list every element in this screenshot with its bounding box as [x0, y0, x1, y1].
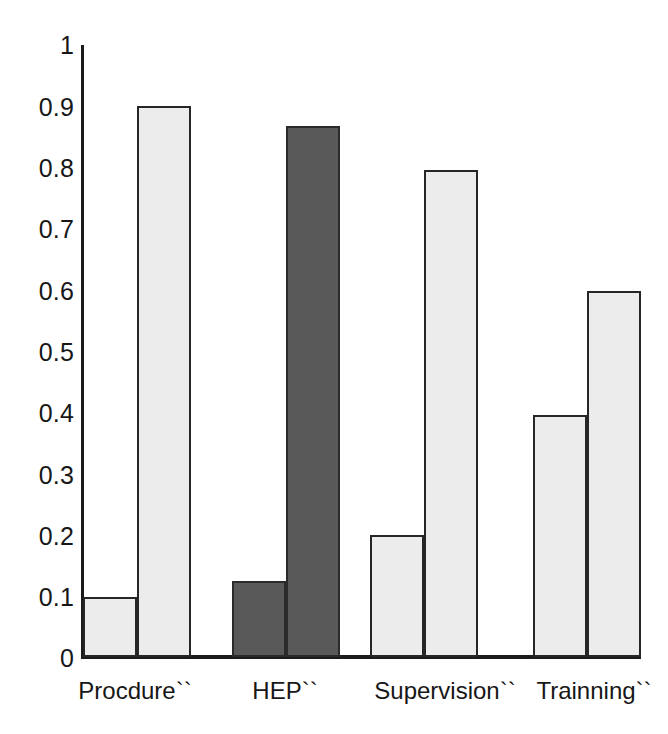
y-tick-label-0-4: 0.4: [0, 401, 74, 426]
y-tick-label-1: 1: [0, 33, 74, 58]
bar-4-1: [533, 415, 587, 657]
x-category-label-hep: HEP``: [210, 676, 360, 706]
bar-2-1: [232, 581, 286, 658]
y-tick-label-0-5: 0.5: [0, 340, 74, 365]
x-axis-category-labels: Procdure`` HEP`` Supervision`` Trainning…: [0, 676, 668, 716]
y-tick-label-0-8: 0.8: [0, 156, 74, 181]
x-category-label-procdure: Procdure``: [60, 676, 210, 706]
y-tick-label-0-6: 0.6: [0, 279, 74, 304]
y-tick-label-0-7: 0.7: [0, 217, 74, 242]
y-tick-label-0-1: 0.1: [0, 585, 74, 610]
y-tick-label-0: 0: [0, 646, 74, 671]
bar-chart: 1 0.9 0.8 0.7 0.6 0.5 0.4 0.3 0.2 0.1 0 …: [0, 0, 668, 734]
plot-area: [83, 45, 668, 657]
x-category-label-supervision: Supervision``: [355, 676, 535, 706]
x-category-label-trainning: Trainning``: [520, 676, 668, 706]
bar-1-1: [83, 597, 137, 657]
y-tick-label-0-9: 0.9: [0, 95, 74, 120]
bar-3-1: [370, 535, 424, 657]
bar-3-2: [424, 170, 478, 657]
y-axis-tick-labels: 1 0.9 0.8 0.7 0.6 0.5 0.4 0.3 0.2 0.1 0: [0, 0, 74, 734]
bar-4-2: [587, 291, 641, 657]
bar-1-2: [137, 106, 191, 657]
y-tick-label-0-2: 0.2: [0, 524, 74, 549]
bar-2-2: [286, 126, 340, 657]
y-tick-label-0-3: 0.3: [0, 463, 74, 488]
